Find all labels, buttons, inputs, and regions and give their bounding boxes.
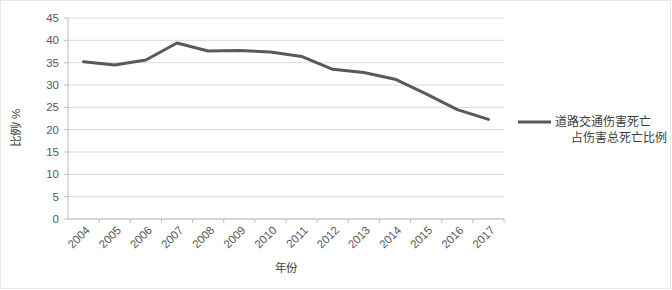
- x-axis-tick-label: 2007: [159, 224, 186, 251]
- x-axis-tick-labels-group: 2004200520062007200820092010201120122013…: [65, 219, 504, 251]
- y-axis-tick-label: 35: [46, 57, 59, 69]
- y-axis-title: 比例/ %: [9, 109, 22, 148]
- y-axis-tick-label: 15: [46, 146, 59, 158]
- y-axis-tick-label: 20: [46, 124, 59, 136]
- legend-label-line1: 道路交通伤害死亡: [555, 114, 651, 129]
- x-axis-title: 年份: [275, 261, 298, 274]
- y-axis-tick-label: 45: [46, 12, 59, 24]
- y-axis-tick-label: 0: [53, 213, 59, 225]
- y-axis-tick-label: 40: [46, 34, 59, 46]
- data-series-line: [84, 43, 489, 119]
- chart-container: 454035302520151050 200420052006200720082…: [0, 0, 672, 290]
- x-axis-tick-label: 2004: [65, 224, 92, 251]
- x-axis-tick-label: 2011: [284, 224, 310, 250]
- y-axis-tick-label: 10: [46, 168, 59, 180]
- y-axis-tick-label: 25: [46, 101, 59, 113]
- axis-lines-group: [68, 18, 504, 219]
- gridlines-group: [68, 18, 504, 219]
- y-axis-tick-label: 5: [53, 191, 59, 203]
- y-axis-tick-label: 30: [46, 79, 59, 91]
- legend-label-line2: 占伤害总死亡比例: [571, 130, 667, 145]
- x-axis-tick-label: 2015: [408, 224, 435, 251]
- x-axis-tick-label: 2005: [97, 224, 124, 251]
- x-axis-tick-label: 2006: [128, 224, 155, 251]
- x-axis-tick-label: 2012: [315, 224, 342, 251]
- x-axis-tick-label: 2010: [252, 224, 279, 251]
- x-axis-tick-label: 2016: [439, 224, 466, 251]
- x-axis-tick-label: 2014: [377, 224, 404, 251]
- x-axis-tick-label: 2008: [190, 224, 217, 251]
- x-axis-tick-label: 2009: [221, 224, 248, 251]
- chart-canvas: 454035302520151050 200420052006200720082…: [0, 0, 672, 290]
- data-series-group: [84, 43, 489, 119]
- legend: 道路交通伤害死亡 占伤害总死亡比例: [518, 114, 667, 145]
- y-axis-tick-labels-group: 454035302520151050: [46, 12, 68, 225]
- x-axis-tick-label: 2017: [470, 224, 497, 251]
- x-axis-tick-label: 2013: [346, 224, 373, 251]
